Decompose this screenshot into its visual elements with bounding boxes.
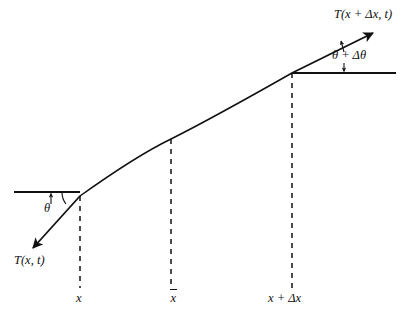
axis-label-x-plus-dx: x + Δx (268, 292, 301, 305)
axis-label-x: x (76, 292, 82, 305)
tension-label-right: T(x + Δx, t) (334, 8, 392, 21)
angle-label-left: θ (44, 202, 50, 215)
angle-label-right: θ + Δθ (332, 49, 366, 62)
tension-label-left: T(x, t) (14, 254, 45, 267)
axis-label-xbar-text: x (170, 292, 177, 305)
axis-label-xbar: x (170, 292, 177, 305)
